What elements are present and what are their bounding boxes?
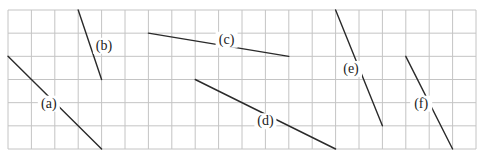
segment-label: (a) — [41, 96, 57, 112]
grid-figure: (a)(b)(c)(d)(e)(f) — [0, 0, 482, 151]
segment-b: (b) — [78, 10, 115, 80]
segment-label: (d) — [257, 113, 274, 129]
segment-label: (b) — [96, 38, 113, 54]
grid — [8, 10, 476, 149]
segment-label: (c) — [219, 32, 235, 48]
segment-label: (e) — [343, 61, 359, 77]
segment-label: (f) — [414, 96, 428, 112]
